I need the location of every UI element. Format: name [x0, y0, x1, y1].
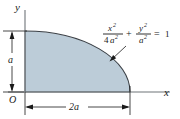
dim-v-arrow-bottom	[10, 84, 15, 92]
dim-h-arrow-left	[25, 105, 33, 110]
eq-term2-denominator-exponent: 2	[144, 34, 147, 40]
x-axis-label: x	[163, 86, 169, 98]
dimension-label-2a: 2a	[69, 101, 79, 112]
eq-plus-operator: +	[126, 28, 132, 39]
eq-term1-numerator-exponent: 2	[113, 22, 116, 28]
origin-label: O	[9, 94, 16, 105]
dim-v-arrow-top	[10, 31, 15, 39]
ellipse-figure: y x O a 2a	[0, 0, 180, 119]
eq-term1-denominator-coeff: 4	[104, 35, 109, 45]
figure-canvas: y x O a 2a	[0, 0, 180, 119]
eq-term2-numerator-base: y	[138, 23, 143, 33]
ellipse-equation: x 2 4 a 2 + y 2 a 2 = 1	[103, 22, 170, 45]
y-axis-label: y	[14, 1, 20, 13]
eq-equals-sign: =	[154, 28, 160, 39]
dim-h-arrow-right	[122, 105, 130, 110]
dimension-label-a: a	[8, 54, 13, 65]
eq-term1-denominator-exponent: 2	[115, 34, 118, 40]
eq-right-side: 1	[165, 29, 170, 39]
eq-term1-numerator-base: x	[107, 23, 112, 33]
eq-term2-numerator-exponent: 2	[144, 22, 147, 28]
